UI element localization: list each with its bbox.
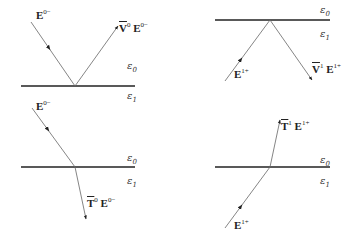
- medium-1-label: ε1: [320, 29, 330, 39]
- panel-transmission-medium-1: [215, 120, 330, 228]
- epsilon-index: 0: [325, 160, 329, 168]
- operator-superscript: 1: [320, 62, 324, 70]
- field-superscript: 0−: [43, 99, 50, 107]
- medium-0-label: ε0: [320, 5, 330, 15]
- epsilon-index: 0: [132, 66, 136, 74]
- epsilon-index: 1: [132, 96, 136, 104]
- epsilon-index: 1: [132, 181, 136, 189]
- transmitted-ray: [75, 167, 86, 219]
- epsilon-index: 0: [325, 10, 329, 18]
- transmitted-field-label: T1 E1+: [281, 121, 309, 132]
- field-superscript: 1+: [302, 119, 309, 127]
- reflected-ray: [75, 26, 118, 86]
- incident-field-label: E0−: [36, 10, 51, 21]
- field-superscript: 0−: [43, 8, 50, 16]
- field-symbol: E: [295, 120, 302, 132]
- field-symbol: E: [326, 63, 333, 75]
- field-superscript: 0−: [108, 196, 115, 204]
- reflection-operator: V: [312, 63, 320, 75]
- operator-superscript: 1: [288, 119, 292, 127]
- medium-0-label: ε0: [320, 155, 330, 165]
- operator-superscript: 0: [127, 21, 131, 29]
- medium-1-label: ε1: [127, 91, 137, 101]
- incident-field-label: E1+: [234, 69, 249, 80]
- medium-0-label: ε0: [127, 153, 137, 163]
- epsilon-index: 0: [132, 158, 136, 166]
- medium-1-label: ε1: [127, 176, 137, 186]
- field-superscript: 1+: [241, 218, 248, 226]
- field-superscript: 0−: [141, 21, 148, 29]
- panel-transmission-medium-0: [21, 108, 135, 219]
- reflection-operator: V: [119, 22, 127, 34]
- incident-field-label: E1+: [234, 220, 249, 231]
- medium-0-label: ε0: [127, 61, 137, 71]
- epsilon-index: 1: [325, 181, 329, 189]
- transmitted-field-label: T0 E0−: [87, 198, 115, 209]
- operator-superscript: 0: [94, 196, 98, 204]
- reflected-ray: [270, 20, 312, 80]
- field-symbol: E: [133, 22, 140, 34]
- reflected-field-label: V1 E1+: [312, 64, 341, 75]
- field-superscript: 1+: [334, 62, 341, 70]
- incident-ray: [32, 108, 75, 167]
- transmitted-ray: [270, 120, 280, 167]
- epsilon-index: 1: [325, 34, 329, 42]
- incident-ray: [31, 22, 75, 86]
- incident-field-label: E0−: [36, 101, 51, 112]
- field-superscript: 1+: [241, 67, 248, 75]
- field-symbol: E: [101, 197, 108, 209]
- reflected-field-label: V0 E0−: [119, 23, 148, 34]
- medium-1-label: ε1: [320, 176, 330, 186]
- panel-reflection-medium-0: [21, 22, 135, 86]
